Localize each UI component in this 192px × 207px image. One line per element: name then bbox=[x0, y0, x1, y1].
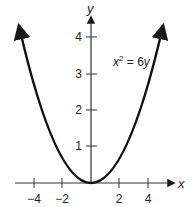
y-tick-label: 2 bbox=[75, 103, 82, 117]
y-tick-label: 4 bbox=[75, 30, 82, 44]
x-tick-label: −4 bbox=[27, 192, 41, 206]
x-tick-label: 2 bbox=[116, 192, 123, 206]
x-tick-label: 4 bbox=[145, 192, 152, 206]
x-tick-label: −2 bbox=[55, 192, 69, 206]
x-axis-label: x bbox=[177, 176, 185, 191]
y-tick-label: 1 bbox=[75, 139, 82, 153]
equation-label: x2 = 6y bbox=[112, 54, 151, 69]
parabola-chart: −4 −2 2 4 1 2 3 4 x y x2 = 6y bbox=[0, 0, 192, 207]
y-axis-label: y bbox=[86, 1, 95, 16]
y-tick-label: 3 bbox=[75, 67, 82, 81]
